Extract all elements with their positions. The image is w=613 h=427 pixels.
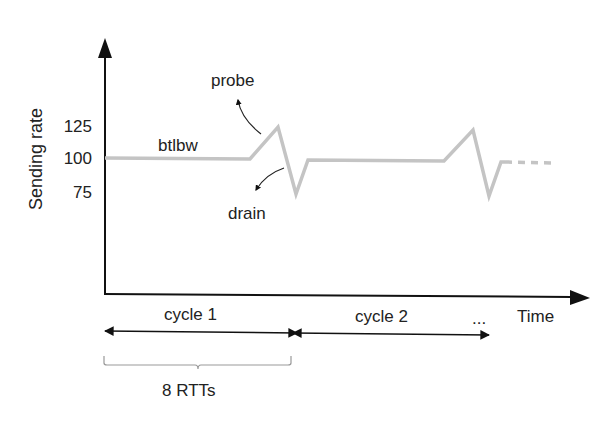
diagram-canvas bbox=[0, 0, 613, 427]
continuation-ellipsis: ... bbox=[472, 310, 486, 327]
probe-arrow-icon bbox=[238, 100, 261, 134]
brace-label: 8 RTTs bbox=[162, 382, 216, 399]
y-axis-arrow-icon bbox=[98, 38, 112, 58]
y-tick-75: 75 bbox=[52, 184, 92, 201]
btlbw-label: btlbw bbox=[158, 137, 198, 154]
x-axis bbox=[104, 290, 590, 305]
cycle-2-span-arrow bbox=[293, 333, 489, 335]
cycle-1-span-arrow bbox=[105, 331, 297, 333]
y-axis-label: Sending rate bbox=[26, 108, 47, 210]
x-axis-arrow-icon bbox=[570, 290, 590, 305]
probe-label: probe bbox=[211, 72, 254, 89]
y-axis bbox=[98, 38, 112, 295]
y-tick-100: 100 bbox=[52, 150, 92, 167]
cycle-1-label: cycle 1 bbox=[164, 306, 217, 323]
x-axis-label: Time bbox=[517, 308, 554, 325]
drain-label: drain bbox=[228, 205, 266, 222]
drain-arrow-icon bbox=[256, 168, 284, 190]
cycle-2-label: cycle 2 bbox=[355, 308, 408, 325]
rate-line-continuation bbox=[505, 162, 556, 163]
rtt-brace bbox=[104, 356, 291, 369]
y-tick-125: 125 bbox=[52, 118, 92, 135]
